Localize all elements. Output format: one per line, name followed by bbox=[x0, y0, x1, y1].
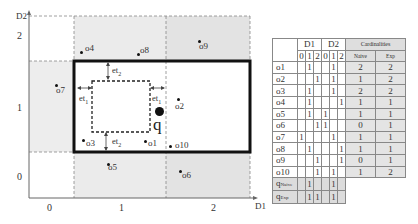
table-corner-cell bbox=[273, 39, 298, 62]
table-row-o1: o11122 bbox=[273, 62, 406, 74]
cell-exp: 2 bbox=[376, 166, 406, 178]
cell-d1-2 bbox=[314, 85, 322, 97]
point-label-o2: o2 bbox=[175, 102, 184, 111]
row-label: qExp bbox=[273, 191, 298, 204]
cell-naive: 1 bbox=[346, 143, 376, 155]
cell-d1-2 bbox=[314, 143, 322, 155]
table-row-q-exp: qExp 1 1 1 bbox=[273, 191, 406, 204]
cell-exp: 1 bbox=[376, 96, 406, 108]
cell-exp: 1 bbox=[376, 108, 406, 120]
cell-d2-1: 1 bbox=[330, 73, 338, 85]
point-label-o7: o7 bbox=[56, 86, 65, 95]
header-naive: Naive bbox=[346, 50, 376, 62]
cell-d2-0 bbox=[322, 143, 330, 155]
grid-figure: D2 D1 0 1 2 0 1 2 o1 o2 o3 o4 o5 o6 o7 o… bbox=[0, 0, 270, 224]
cell-d2-2 bbox=[338, 120, 346, 132]
y-axis-label: D2 bbox=[16, 12, 27, 21]
cell-d2-2 bbox=[338, 131, 346, 143]
cell-d1-1: 1 bbox=[306, 108, 314, 120]
cardinality-table: D1 D2 Cardinalities 0 1 2 0 1 2 Naive Ex… bbox=[272, 38, 406, 204]
cell-d1-2 bbox=[314, 62, 322, 74]
cell-exp: 1 bbox=[376, 131, 406, 143]
cell-d2-0 bbox=[322, 96, 330, 108]
cell-d2-2 bbox=[338, 73, 346, 85]
grid-figure-canvas bbox=[0, 0, 270, 224]
cell-naive: 2 bbox=[346, 85, 376, 97]
cell-d1-1: 1 bbox=[306, 85, 314, 97]
cell-d1-2: 1 bbox=[314, 73, 322, 85]
point-label-o3: o3 bbox=[86, 139, 95, 148]
cell: 1 bbox=[314, 191, 322, 204]
row-label: o6 bbox=[273, 120, 298, 132]
x-tick-0: 0 bbox=[47, 203, 52, 212]
cell-exp: 1 bbox=[376, 120, 406, 132]
point-label-o6: o6 bbox=[182, 171, 191, 180]
cell-d1-0 bbox=[298, 73, 306, 85]
cell-d1-2: 1 bbox=[314, 166, 322, 178]
header-d1: D1 bbox=[298, 39, 322, 51]
cell-d2-1 bbox=[330, 154, 338, 166]
point-o3 bbox=[82, 139, 85, 142]
cell-d2-0 bbox=[322, 131, 330, 143]
table-row-o2: o21112 bbox=[273, 73, 406, 85]
et2-label-bottom: et2 bbox=[112, 137, 121, 150]
row-label: o5 bbox=[273, 108, 298, 120]
cell-d2-2 bbox=[338, 85, 346, 97]
table-row-o10: o101112 bbox=[273, 166, 406, 178]
header-d2: D2 bbox=[322, 39, 346, 51]
cell bbox=[322, 191, 330, 204]
cell-naive: 0 bbox=[346, 120, 376, 132]
cell-d1-0 bbox=[298, 85, 306, 97]
cell-d2-0 bbox=[322, 154, 330, 166]
blank-cell bbox=[346, 178, 406, 191]
table-row-o9: o91101 bbox=[273, 154, 406, 166]
cell bbox=[298, 178, 306, 191]
cell-d2-0 bbox=[322, 62, 330, 74]
point-o4 bbox=[80, 51, 83, 54]
cell: 1 bbox=[306, 191, 314, 204]
point-o10 bbox=[169, 145, 172, 148]
row-label: o1 bbox=[273, 62, 298, 74]
header-d1-1: 1 bbox=[306, 50, 314, 62]
point-label-o10: o10 bbox=[175, 141, 189, 150]
header-exp: Exp bbox=[376, 50, 406, 62]
cell-naive: 1 bbox=[346, 131, 376, 143]
cell-d1-1: 1 bbox=[306, 96, 314, 108]
cell-d2-2: 1 bbox=[338, 143, 346, 155]
cell-d2-1: 1 bbox=[330, 166, 338, 178]
cell-d1-1: 1 bbox=[306, 62, 314, 74]
cell-exp: 2 bbox=[376, 85, 406, 97]
et1-label-left: et1 bbox=[79, 94, 88, 107]
cell-exp: 2 bbox=[376, 62, 406, 74]
cell bbox=[314, 178, 322, 191]
x-tick-2: 2 bbox=[211, 203, 216, 212]
cell-d1-0 bbox=[298, 96, 306, 108]
cell-d2-0 bbox=[322, 85, 330, 97]
cell-d1-1 bbox=[306, 73, 314, 85]
row-label: o10 bbox=[273, 166, 298, 178]
cell-d1-0: 1 bbox=[298, 131, 306, 143]
cell-naive: 0 bbox=[346, 154, 376, 166]
cell-d1-0 bbox=[298, 154, 306, 166]
cell-d1-1 bbox=[306, 120, 314, 132]
cell-d2-1: 1 bbox=[330, 62, 338, 74]
cell-d2-2: 1 bbox=[338, 96, 346, 108]
cell-d1-0 bbox=[298, 108, 306, 120]
table-row-o7: o71111 bbox=[273, 131, 406, 143]
cell-d2-0: 1 bbox=[322, 108, 330, 120]
cell bbox=[338, 178, 346, 191]
cell bbox=[338, 191, 346, 204]
cell-exp: 1 bbox=[376, 143, 406, 155]
table-row-q-naive: qNaive 1 1 bbox=[273, 178, 406, 191]
row-label: o7 bbox=[273, 131, 298, 143]
header-d1-2: 2 bbox=[314, 50, 322, 62]
cell-d1-1 bbox=[306, 154, 314, 166]
cell-d2-1 bbox=[330, 108, 338, 120]
cell-d1-0 bbox=[298, 143, 306, 155]
cell-d1-0 bbox=[298, 120, 306, 132]
cell-d2-1 bbox=[330, 143, 338, 155]
y-tick-2: 2 bbox=[17, 31, 22, 40]
cell: 1 bbox=[306, 178, 314, 191]
et1-label-right: et1 bbox=[152, 94, 161, 107]
table-header-row-1: D1 D2 Cardinalities bbox=[273, 39, 406, 51]
